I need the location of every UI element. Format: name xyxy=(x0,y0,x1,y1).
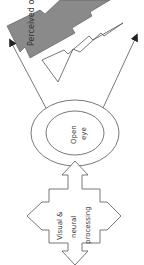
processing-label-visual: Visual & xyxy=(56,211,64,240)
eye-label-open: Open xyxy=(70,125,78,144)
perceived-object-shape xyxy=(7,0,110,58)
four-way-arrow-shape xyxy=(27,161,121,265)
eye-label-eye: eye xyxy=(80,127,88,140)
perception-diagram: Perceived ob Open eye Visual & neural pr… xyxy=(0,0,144,265)
processing-label-processing: processing xyxy=(84,206,92,244)
processing-label-neural: neural xyxy=(70,216,78,238)
perceived-object-label: Perceived ob xyxy=(27,0,36,46)
arrow-to-perceived-right xyxy=(103,37,136,108)
